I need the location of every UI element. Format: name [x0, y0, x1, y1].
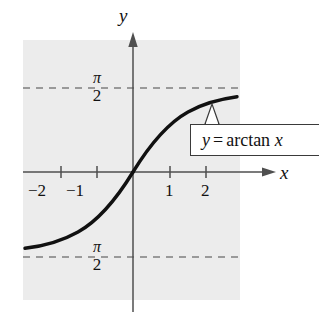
x-axis-arrowhead: [262, 168, 276, 177]
tick-label-plus-1: 1: [165, 182, 174, 199]
callout-lhs: y: [202, 130, 210, 150]
asymptote-label-negative: π 2: [84, 239, 110, 274]
asymptote-label-negative-numerator: π: [84, 239, 110, 256]
plot-background: [23, 40, 240, 300]
callout-function-name: arctan: [226, 130, 270, 150]
asymptote-label-positive-denominator: 2: [84, 87, 110, 105]
arctan-graph-figure: [0, 0, 319, 318]
callout-variable: x: [275, 130, 283, 150]
asymptote-label-positive-numerator: π: [84, 70, 110, 87]
y-axis-label: y: [119, 6, 127, 25]
x-axis-label: x: [280, 163, 288, 182]
y-axis-arrowhead: [128, 32, 137, 47]
asymptote-label-positive: π 2: [84, 70, 110, 105]
callout-label: y=arctan x: [202, 131, 283, 149]
asymptote-label-negative-denominator: 2: [84, 256, 110, 274]
callout-equals: =: [210, 130, 226, 150]
tick-label-minus-2: −2: [28, 182, 46, 199]
tick-label-minus-1: −1: [66, 182, 84, 199]
tick-label-plus-2: 2: [201, 182, 210, 199]
